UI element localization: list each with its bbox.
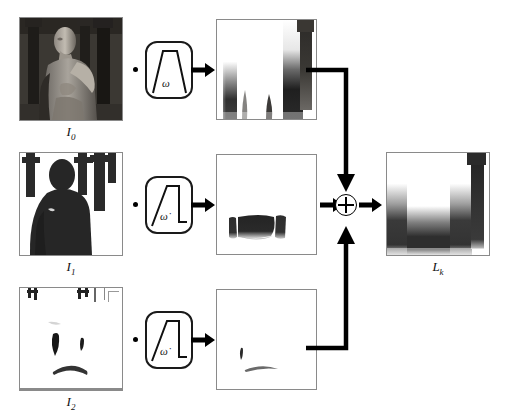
route-row0-to-adder	[306, 66, 364, 201]
output-image-0	[217, 20, 316, 119]
output-image-frame-2	[216, 289, 317, 390]
result-image-art	[387, 153, 489, 255]
filter-box-1[interactable]	[145, 176, 193, 234]
adder-circled-plus	[335, 194, 357, 216]
output-image-frame-1	[216, 154, 317, 255]
filter-symbol-0: ω	[162, 78, 170, 89]
result-label-sub: k	[440, 267, 444, 277]
multiply-dot-2	[133, 337, 138, 342]
input-image-label-0: I0	[19, 124, 123, 142]
input-image-1-art	[20, 153, 122, 255]
diagram-canvas: I0 ω	[0, 0, 510, 419]
output-image-0-art	[217, 20, 316, 119]
input-image-frame-2	[19, 287, 123, 391]
output-image-1-art	[217, 155, 316, 254]
result-image-frame	[386, 152, 490, 256]
multiply-dot-1	[133, 202, 138, 207]
result-image-label: Lk	[386, 259, 490, 277]
filter-symbol-2: ω̇	[160, 346, 168, 357]
output-image-2	[217, 290, 316, 389]
result-label-text: L	[432, 259, 439, 274]
input-image-frame-0	[19, 17, 123, 121]
output-image-2-art	[217, 290, 316, 389]
arrow-adder-to-result	[359, 197, 383, 213]
route-row2-to-adder	[306, 210, 364, 352]
input-image-frame-1	[19, 152, 123, 256]
input-label-sub-0: 0	[71, 132, 76, 142]
arrow-right-0	[191, 62, 216, 78]
input-image-0	[20, 18, 122, 120]
filter-box-2[interactable]	[145, 311, 193, 369]
filter-symbol-1: ω̇	[160, 211, 168, 222]
input-image-2	[20, 288, 122, 390]
input-label-sub-2: 2	[71, 402, 76, 412]
adder-vertical-bar	[345, 197, 347, 213]
input-image-label-1: I1	[19, 259, 123, 277]
input-image-0-art	[20, 18, 122, 120]
input-image-1	[20, 153, 122, 255]
input-image-label-2: I2	[19, 394, 123, 412]
filter-curve-2	[147, 313, 191, 367]
input-image-2-art	[20, 288, 122, 390]
filter-box-0[interactable]	[145, 41, 193, 99]
output-image-frame-0	[216, 19, 317, 120]
multiply-dot-0	[133, 67, 138, 72]
arrow-right-2	[191, 332, 216, 348]
output-image-1	[217, 155, 316, 254]
input-label-sub-1: 1	[71, 267, 76, 277]
result-image	[387, 153, 489, 255]
arrow-right-1	[191, 197, 216, 213]
filter-curve-1	[147, 178, 191, 232]
